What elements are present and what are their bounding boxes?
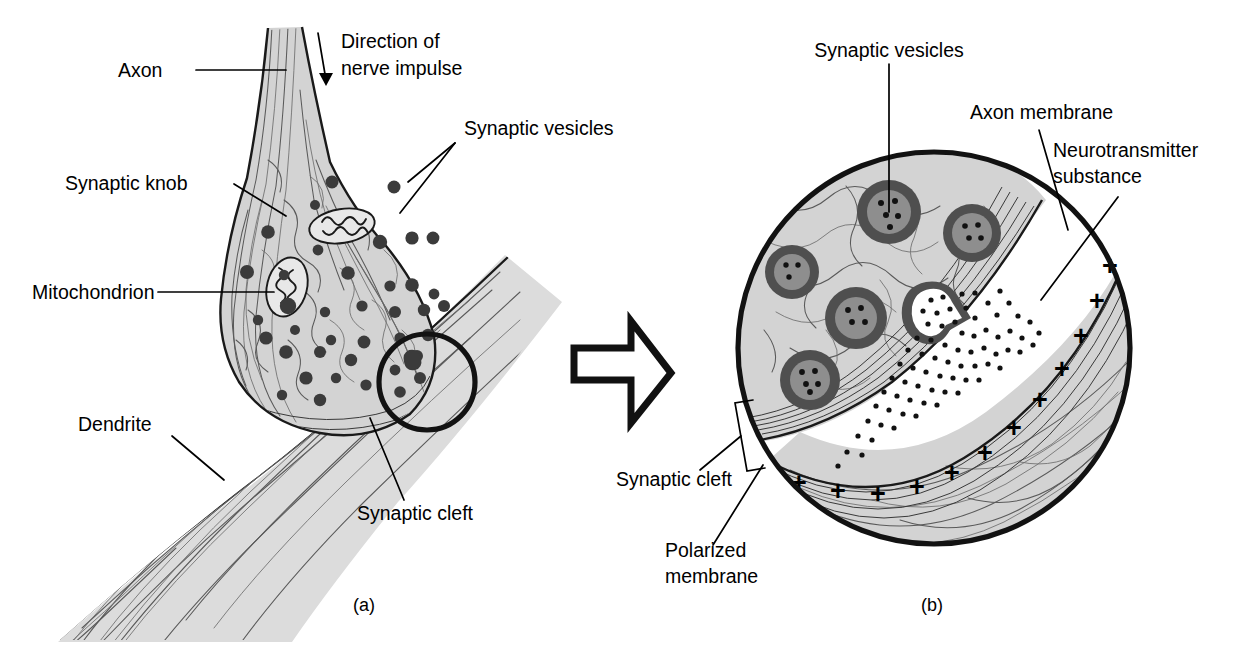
diagram-canvas: Axon Direction of nerve impulse Synaptic… bbox=[0, 0, 1257, 670]
charge-symbol: + bbox=[1054, 354, 1070, 384]
label-synaptic-knob: Synaptic knob bbox=[65, 172, 188, 194]
charge-symbol: + bbox=[909, 472, 925, 502]
label-polarized-membrane-line2: membrane bbox=[665, 565, 758, 587]
label-synaptic-cleft-b: Synaptic cleft bbox=[616, 468, 733, 490]
vesicle bbox=[943, 204, 1001, 262]
vesicle bbox=[825, 287, 887, 349]
label-direction-line1: Direction of bbox=[341, 30, 440, 52]
vesicle bbox=[780, 350, 840, 410]
caption-panel-a: (a) bbox=[353, 595, 375, 615]
charge-symbol: + bbox=[1073, 321, 1089, 351]
label-neurotransmitter-line1: Neurotransmitter bbox=[1053, 139, 1199, 161]
label-neurotransmitter-line2: substance bbox=[1053, 165, 1142, 187]
label-synaptic-cleft-a: Synaptic cleft bbox=[357, 502, 474, 524]
charge-symbol: + bbox=[977, 438, 993, 468]
charge-symbol: + bbox=[1089, 286, 1105, 316]
synapse-figure: Axon Direction of nerve impulse Synaptic… bbox=[0, 0, 1257, 670]
charge-symbol: + bbox=[870, 479, 886, 509]
label-mitochondrion: Mitochondrion bbox=[32, 281, 154, 303]
fusing-vesicle bbox=[404, 350, 422, 371]
vesicle bbox=[765, 245, 819, 299]
charge-symbol: + bbox=[944, 458, 960, 488]
label-polarized-membrane-line1: Polarized bbox=[665, 539, 746, 561]
label-axon-membrane: Axon membrane bbox=[970, 101, 1113, 123]
charge-symbol: + bbox=[1032, 385, 1048, 415]
label-synaptic-vesicles-a: Synaptic vesicles bbox=[464, 117, 614, 139]
label-synaptic-vesicles-b: Synaptic vesicles bbox=[814, 39, 964, 61]
label-direction-line2: nerve impulse bbox=[341, 57, 462, 79]
charge-symbol: + bbox=[1006, 413, 1022, 443]
charge-symbol: + bbox=[830, 476, 846, 506]
caption-panel-b: (b) bbox=[921, 595, 943, 615]
label-dendrite: Dendrite bbox=[78, 413, 152, 435]
label-axon: Axon bbox=[118, 59, 162, 81]
